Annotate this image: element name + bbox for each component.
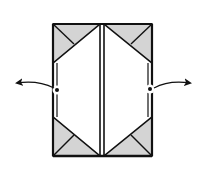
right-pull-arrow-icon	[154, 82, 190, 88]
right-panel	[104, 24, 152, 156]
diagram-canvas	[0, 0, 202, 170]
left-pull-arrow-icon	[17, 82, 54, 88]
center-divider	[100, 24, 104, 156]
origami-diagram	[0, 0, 202, 170]
